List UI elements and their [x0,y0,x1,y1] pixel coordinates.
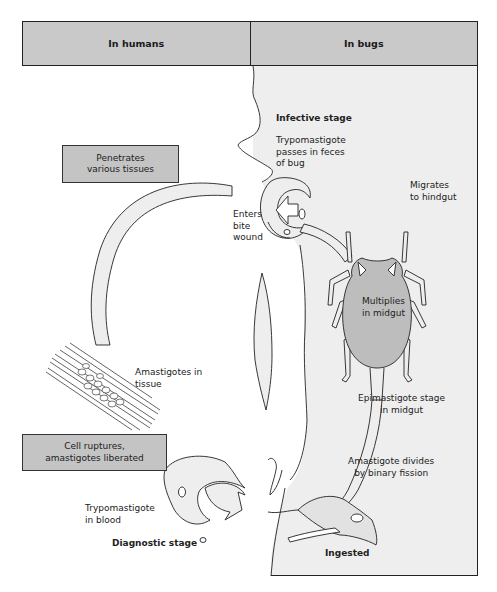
box-penetrates-line-1: Penetrates [96,153,144,165]
box-penetrates-line-2: various tissues [87,164,154,176]
label-infective-stage: Infective stage [276,113,352,125]
label-epimastigote-stage: Epimastigote stage in midgut [358,393,445,416]
label-line: bite [233,221,263,233]
ingested-trypomastigote [268,496,377,545]
label-line: by binary fission [348,468,434,480]
label-line: Trypomastigote [276,135,346,147]
label-diagnostic-stage: Diagnostic stage [112,538,197,550]
box-cell-ruptures-line-2: amastigotes liberated [45,453,144,465]
label-ingested: Ingested [325,548,370,560]
box-cell-ruptures-line-1: Cell ruptures, [64,441,125,453]
label-enters-bite-wound: Enters bite wound [233,209,263,244]
label-amastigote-divides: Amastigote divides by binary fission [348,456,434,479]
label-line: tissue [135,379,202,391]
label-line: Epimastigote stage [358,393,445,405]
label-line: wound [233,232,263,244]
label-trypomastigote-blood: Trypomastigote in blood [85,503,155,526]
label-line: in midgut [362,308,405,320]
label-line: Multiplies [362,296,405,308]
label-line: in midgut [358,405,445,417]
cycle-arc-left [91,183,232,345]
box-penetrates-tissues: Penetrates various tissues [62,145,179,183]
label-line: to hindgut [410,192,456,204]
label-trypomastigote-feces: Trypomastigote passes in feces of bug [276,135,346,170]
label-line: of bug [276,158,346,170]
life-cycle-illustration [0,0,497,592]
cycle-arc-bite-to-bug [300,224,352,262]
label-line: Amastigote divides [348,456,434,468]
label-line: Migrates [410,180,456,192]
label-migrates-hindgut: Migrates to hindgut [410,180,456,203]
label-line: Amastigotes in [135,367,202,379]
label-multiplies-midgut: Multiplies in midgut [362,296,405,319]
label-line: passes in feces [276,147,346,159]
label-line: in blood [85,515,155,527]
label-amastigotes-tissue: Amastigotes in tissue [135,367,202,390]
label-line: Trypomastigote [85,503,155,515]
box-cell-ruptures: Cell ruptures, amastigotes liberated [22,434,167,471]
label-line: Enters [233,209,263,221]
blood-trypomastigote-cycle [164,456,245,542]
